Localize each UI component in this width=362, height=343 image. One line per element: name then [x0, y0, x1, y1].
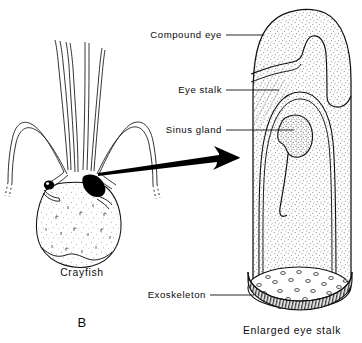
figure-canvas: Compound eye Eye stalk Sinus gland Exosk… — [0, 0, 362, 343]
label-exoskeleton: Exoskeleton — [148, 289, 206, 300]
label-sinus-gland: Sinus gland — [166, 124, 222, 135]
antennule-group — [55, 40, 105, 172]
label-compound-eye: Compound eye — [150, 29, 222, 40]
panel-letter-b: B — [77, 315, 86, 330]
caption-enlarged-eye-stalk: Enlarged eye stalk — [243, 325, 341, 336]
figure-panel-b: Compound eye Eye stalk Sinus gland Exosk… — [0, 0, 362, 343]
magnify-arrow — [98, 146, 240, 176]
label-eye-stalk: Eye stalk — [178, 84, 222, 95]
caption-crayfish: Crayfish — [60, 267, 104, 278]
enlarged-eye-stalk-drawing — [248, 10, 352, 310]
crayfish-drawing — [5, 40, 160, 267]
